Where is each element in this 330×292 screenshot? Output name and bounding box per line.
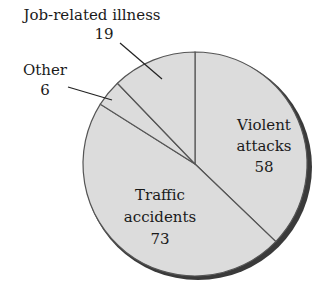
pie-chart: Job-related illness 19 Other 6 Violent a…	[0, 0, 330, 292]
leader-line-other	[68, 87, 112, 100]
label-other-name: Other	[23, 61, 68, 79]
label-traffic-name2: accidents	[124, 208, 196, 226]
label-other-value: 6	[40, 81, 50, 99]
label-violent-name2: attacks	[236, 137, 291, 155]
label-job-related-name: Job-related illness	[21, 6, 160, 24]
label-traffic-value: 73	[150, 230, 169, 248]
label-violent-name: Violent	[236, 116, 291, 134]
label-violent-value: 58	[254, 158, 273, 176]
label-job-related-value: 19	[94, 25, 113, 43]
label-traffic-name: Traffic	[135, 186, 185, 204]
